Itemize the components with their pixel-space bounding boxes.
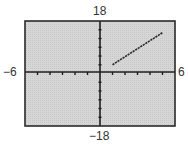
ymax-label: 18 bbox=[93, 5, 106, 17]
ymin-label: −18 bbox=[89, 130, 109, 142]
xmax-label: 6 bbox=[178, 66, 185, 78]
xmin-label: −6 bbox=[3, 66, 17, 78]
calculator-graph-screen bbox=[0, 0, 188, 147]
